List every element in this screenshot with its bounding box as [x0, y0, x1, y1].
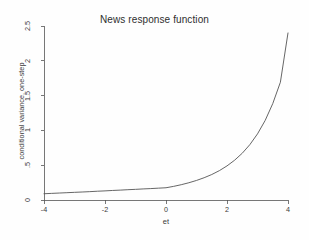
data-series: [44, 33, 288, 194]
chart-figure: News response function conditional varia…: [0, 0, 309, 240]
series-line: [44, 33, 288, 194]
axis-ticks: [41, 26, 289, 204]
axis-lines: [44, 26, 288, 200]
plot-area: [0, 0, 309, 240]
